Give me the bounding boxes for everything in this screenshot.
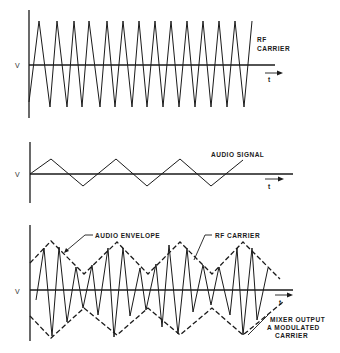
rf-label: RF [257,36,267,43]
audio-signal-panel: V t AUDIO SIGNAL [15,142,293,203]
t-arrow-icon [275,293,293,298]
v-axis-label: V [15,288,20,295]
t-axis-label: t [268,76,271,83]
t-arrow-icon [265,71,283,76]
carrier-label: CARRIER [257,45,290,52]
rf-carrier-panel: V t RF CARRIER [15,10,290,118]
audio-envelope-label: AUDIO ENVELOPE [95,232,160,239]
rf-carrier-label: RF CARRIER [215,232,260,239]
t-arrow-icon [265,177,284,182]
modulated-carrier-wave [36,245,268,337]
upper-audio-envelope [30,241,280,279]
v-axis-label: V [15,171,20,178]
rf-carrier-wave [29,21,252,107]
audio-signal-wave [30,159,243,186]
rf-carrier-leader [194,235,212,260]
modulated-label: A MODULATED [267,324,320,331]
v-axis-label: V [15,62,20,69]
audio-signal-label: AUDIO SIGNAL [211,151,264,158]
mixer-output-leader [248,315,268,335]
mixer-output-panel: V t AUDIO ENVELOPE RF CARRIER MIXER OUTP… [15,225,325,341]
t-axis-label: t [279,299,282,306]
carrier-label: CARRIER [275,332,308,339]
am-modulation-diagram: V t RF CARRIER V t AUDIO SIGNAL V t [0,0,340,353]
audio-envelope-leader [66,235,93,251]
t-axis-label: t [268,183,271,190]
mixer-output-label: MIXER OUTPUT [270,316,325,323]
